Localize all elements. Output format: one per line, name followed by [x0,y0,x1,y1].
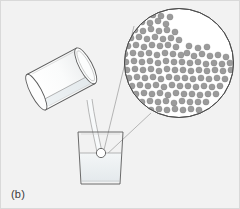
magnifier-marker [96,148,105,157]
panel-label: (b) [11,189,25,200]
figure-illustration [1,1,240,209]
magnified-view [122,9,234,118]
figure-panel: (b) [0,0,240,209]
pour-stream [87,99,102,152]
